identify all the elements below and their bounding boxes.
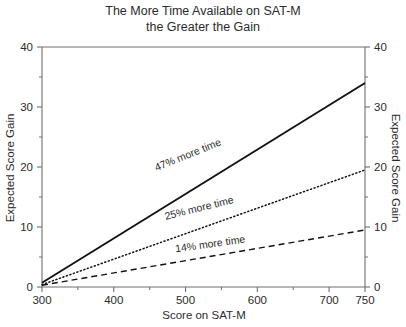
- x-tick-label: 750: [355, 294, 374, 306]
- series-line-dotted: [42, 170, 365, 285]
- tick-labels: 001010202030304040300400500600700750: [20, 41, 387, 306]
- x-tick-label: 700: [320, 294, 339, 306]
- series-lines: [42, 83, 365, 285]
- y-tick-label-left: 40: [20, 41, 33, 53]
- plot-area: 001010202030304040300400500600700750 47%…: [0, 0, 406, 327]
- series-label: 25% more time: [163, 193, 235, 222]
- x-tick-label: 300: [32, 294, 51, 306]
- series-label: 47% more time: [153, 135, 223, 173]
- series-label: 14% more time: [174, 233, 246, 255]
- x-tick-label: 600: [248, 294, 267, 306]
- chart-figure: The More Time Available on SAT-M the Gre…: [0, 0, 406, 327]
- x-tick-label: 400: [104, 294, 123, 306]
- y-axis-title-left: Expected Score Gain: [4, 114, 16, 223]
- x-axis-title: Score on SAT-M: [162, 309, 246, 321]
- y-tick-label-left: 30: [20, 101, 33, 113]
- y-tick-label-right: 10: [374, 221, 387, 233]
- y-tick-label-right: 20: [374, 161, 387, 173]
- y-tick-label-left: 0: [27, 281, 33, 293]
- series-line-solid: [42, 83, 365, 283]
- series-labels: 47% more time25% more time14% more time: [153, 135, 246, 254]
- x-tick-label: 500: [176, 294, 195, 306]
- y-axis-title-right: Expected Score Gain: [390, 114, 402, 223]
- y-tick-label-right: 30: [374, 101, 387, 113]
- y-tick-label-right: 40: [374, 41, 387, 53]
- y-tick-label-right: 0: [374, 281, 380, 293]
- y-tick-label-left: 20: [20, 161, 33, 173]
- y-tick-label-left: 10: [20, 221, 33, 233]
